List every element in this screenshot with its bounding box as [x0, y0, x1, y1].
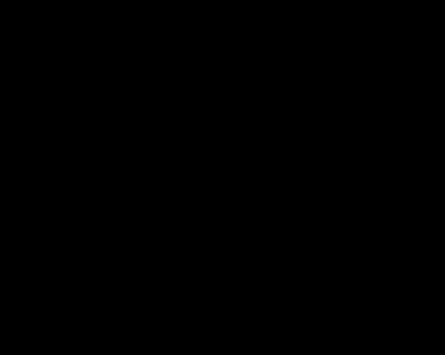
page-background	[0, 0, 445, 355]
baseball-field-diagram	[0, 0, 445, 355]
field-svg-canvas	[0, 0, 445, 355]
